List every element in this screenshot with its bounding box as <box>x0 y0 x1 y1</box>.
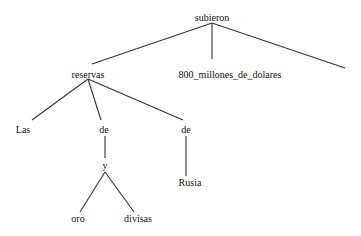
tree-edges <box>0 0 361 236</box>
node-las: Las <box>16 125 30 135</box>
edge-subieron-reservas <box>92 23 212 64</box>
edge-subieron-right <box>212 23 345 68</box>
edge-reservas-de2 <box>88 79 183 120</box>
edge-reservas-las <box>32 79 88 120</box>
node-y: y <box>103 161 108 171</box>
node-reservas: reservas <box>72 70 105 80</box>
node-oro: oro <box>71 214 84 224</box>
edge-reservas-de1 <box>88 79 101 120</box>
node-800-millones-de-dolares: 800_millones_de_dolares <box>179 70 282 80</box>
node-de-2: de <box>181 125 190 135</box>
node-rusia: Rusia <box>179 178 202 188</box>
node-divisas: divisas <box>124 214 152 224</box>
node-subieron: subieron <box>195 13 229 23</box>
edge-y-divisas <box>105 172 134 212</box>
edge-y-oro <box>80 172 105 212</box>
node-de-1: de <box>99 125 108 135</box>
